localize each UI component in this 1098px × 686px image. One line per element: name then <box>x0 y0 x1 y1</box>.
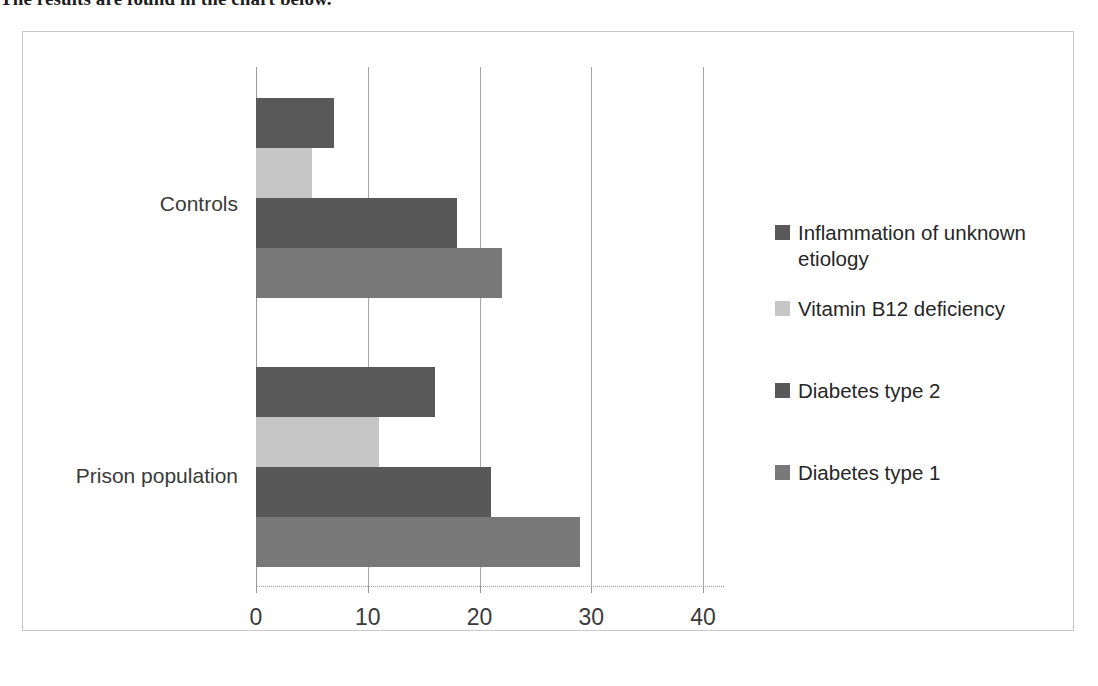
bar-prison-population-diabetes-type-1 <box>256 517 580 567</box>
category-label-controls: Controls <box>23 192 238 216</box>
chart-frame: Controls Prison population Inflammation … <box>22 31 1074 631</box>
tick-label-10: 10 <box>338 604 398 631</box>
plot-area <box>256 67 703 586</box>
caption-text: The results are found in the chart below… <box>0 0 1098 10</box>
gridline-40 <box>703 67 704 586</box>
tick-label-30: 30 <box>561 604 621 631</box>
legend-swatch-icon-vitamin-b12 <box>775 301 790 316</box>
bar-prison-population-diabetes-type-2 <box>256 467 491 517</box>
category-label-prison: Prison population <box>23 464 238 488</box>
legend-item-vitamin-b12[interactable]: Vitamin B12 deficiency <box>775 296 1055 322</box>
bar-controls-inflammation <box>256 98 334 148</box>
legend-item-inflammation[interactable]: Inflammation of unknown etiology <box>775 220 1055 272</box>
chart-legend: Inflammation of unknown etiology Vitamin… <box>775 220 1055 512</box>
tick-label-20: 20 <box>450 604 510 631</box>
legend-label-inflammation: Inflammation of unknown etiology <box>798 220 1048 272</box>
tick-label-40: 40 <box>673 604 733 631</box>
bar-prison-population-vitamin-b12 <box>256 417 379 467</box>
legend-swatch-icon-diabetes-type-1 <box>775 465 790 480</box>
legend-item-diabetes-type-2[interactable]: Diabetes type 2 <box>775 378 1055 404</box>
bar-controls-diabetes-type-1 <box>256 248 502 298</box>
caption-line: The results are found in the chart below… <box>0 0 1098 10</box>
value-axis-line <box>256 586 724 588</box>
legend-swatch-icon-inflammation <box>775 225 790 240</box>
bar-controls-diabetes-type-2 <box>256 198 457 248</box>
legend-label-diabetes-type-2: Diabetes type 2 <box>798 378 940 404</box>
bar-prison-population-inflammation <box>256 367 435 417</box>
gridline-30 <box>591 67 592 586</box>
legend-item-diabetes-type-1[interactable]: Diabetes type 1 <box>775 460 1055 486</box>
legend-label-diabetes-type-1: Diabetes type 1 <box>798 460 940 486</box>
bar-controls-vitamin-b12 <box>256 148 312 198</box>
legend-label-vitamin-b12: Vitamin B12 deficiency <box>798 296 1005 322</box>
legend-swatch-icon-diabetes-type-2 <box>775 383 790 398</box>
tick-label-0: 0 <box>226 604 286 631</box>
